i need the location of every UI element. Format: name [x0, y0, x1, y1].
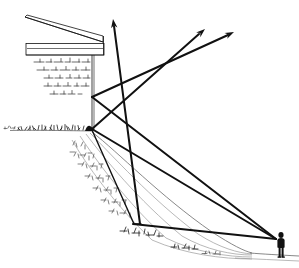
canvas-background: [0, 0, 299, 268]
diagram-canvas: [0, 0, 299, 268]
sight-line-diagram: [0, 0, 299, 268]
